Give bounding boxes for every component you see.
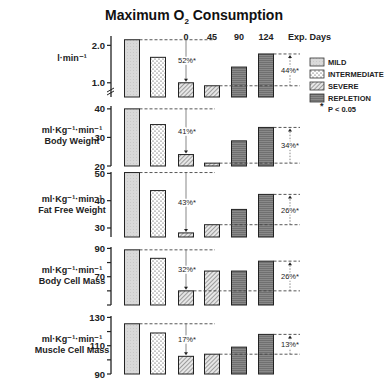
panel-unit-label: ml·Kg⁻¹·min⁻¹ (42, 194, 103, 204)
decrease-arrowhead (184, 352, 188, 355)
y-tick-label: 110 (90, 340, 105, 351)
bar-45 (205, 163, 220, 166)
increase-percent-label: 44%* (281, 66, 299, 75)
exp-days-header: 04590124Exp. Days (183, 32, 331, 42)
increase-arrowhead (288, 262, 292, 265)
decrease-arrowhead (184, 229, 188, 232)
y-tick-label: 130 (89, 312, 105, 323)
bar-mild (125, 250, 140, 305)
bar-90 (232, 141, 247, 166)
bar-mild (125, 324, 140, 374)
increase-arrowhead (288, 335, 292, 338)
bar-mild (125, 40, 140, 97)
y-tick-label: 70 (94, 271, 105, 282)
bar-45 (205, 354, 220, 374)
panels: l·min⁻¹1.02.052%*44%*ml·Kg⁻¹·min⁻¹Body W… (35, 36, 300, 380)
increase-percent-label: 26%* (281, 272, 299, 281)
bar-124 (259, 261, 274, 305)
y-tick-label: 1.0 (92, 77, 105, 88)
y-tick-label: 90 (94, 369, 105, 380)
decrease-arrowhead (184, 79, 188, 82)
decrease-arrowhead (184, 151, 188, 154)
increase-arrowhead (288, 55, 292, 58)
panel-measure-label: Body Weight (45, 136, 100, 146)
bar-severe (179, 233, 194, 237)
bar-mild (125, 109, 140, 166)
y-tick-label: 30 (94, 132, 105, 143)
exp-days-label: Exp. Days (288, 32, 331, 42)
bar-intermediate (151, 333, 166, 374)
bar-severe (179, 83, 194, 97)
increase-percent-label: 34%* (281, 141, 299, 150)
legend-label: INTERMEDIATE (328, 70, 384, 79)
bar-90 (232, 271, 247, 305)
y-tick-label: 40 (94, 103, 105, 114)
increase-percent-label: 13%* (281, 340, 299, 349)
bar-intermediate (151, 191, 166, 237)
bar-45 (205, 225, 220, 237)
bar-severe (179, 356, 194, 374)
bar-intermediate (151, 57, 166, 97)
y-tick-label: 40 (94, 195, 105, 206)
panel-3: ml·Kg⁻¹·min⁻¹Fat Free Weight30405043%*26… (38, 168, 300, 237)
legend-significance-star: * (320, 101, 324, 111)
bar-severe (179, 291, 194, 305)
legend-swatch (310, 82, 324, 90)
bar-124 (259, 194, 274, 237)
bar-90 (232, 347, 247, 374)
y-tick-label: 30 (94, 222, 105, 233)
legend-label: MILD (328, 58, 347, 67)
legend-swatch (310, 58, 324, 66)
panel-5: ml·Kg⁻¹·min⁻¹Muscle Cell Mass9011013017%… (35, 312, 300, 380)
bar-124 (259, 127, 274, 166)
decrease-percent-label: 32%* (178, 265, 196, 274)
bar-intermediate (151, 258, 166, 305)
bar-severe (179, 155, 194, 166)
exp-day-label: 124 (258, 32, 273, 42)
decrease-percent-label: 17%* (178, 335, 196, 344)
decrease-arrowhead (184, 287, 188, 290)
panel-unit-label: ml·Kg⁻¹·min⁻¹ (42, 265, 103, 275)
panel-2: ml·Kg⁻¹·min⁻¹Body Weight20304041%*34%* (42, 103, 300, 171)
bar-90 (232, 209, 247, 237)
max-o2-consumption-chart: Maximum O2 Consumption 04590124Exp. Days… (0, 0, 388, 387)
legend-label: REPLETION (328, 94, 371, 103)
legend-significance-label: P < 0.05 (328, 105, 356, 114)
panel-1: l·min⁻¹1.02.052%*44%* (57, 36, 300, 97)
increase-arrowhead (288, 128, 292, 131)
bar-90 (232, 67, 247, 97)
y-tick-label: 90 (94, 243, 105, 254)
exp-day-label: 45 (207, 32, 217, 42)
decrease-percent-label: 41%* (178, 127, 196, 136)
decrease-percent-label: 43%* (178, 198, 196, 207)
bar-intermediate (151, 125, 166, 166)
bar-45 (205, 271, 220, 305)
legend-swatch (310, 70, 324, 78)
y-tick-label: 2.0 (92, 40, 105, 51)
y-tick-label: 50 (94, 168, 105, 179)
panel-unit-label: ml·Kg⁻¹·min⁻¹ (42, 125, 103, 135)
panel-unit-label: l·min⁻¹ (57, 53, 87, 63)
bar-mild (125, 173, 140, 237)
panel-4: ml·Kg⁻¹·min⁻¹Body Cell Mass709032%*26%* (39, 243, 300, 305)
legend: MILDINTERMEDIATESEVEREREPLETION*P < 0.05 (310, 58, 384, 114)
increase-arrowhead (288, 195, 292, 198)
bar-124 (259, 54, 274, 97)
chart-title: Maximum O2 Consumption (105, 7, 283, 26)
increase-percent-label: 26%* (281, 206, 299, 215)
decrease-percent-label: 52%* (178, 56, 196, 65)
exp-day-label: 90 (234, 32, 244, 42)
bar-45 (205, 86, 220, 97)
legend-label: SEVERE (328, 82, 358, 91)
